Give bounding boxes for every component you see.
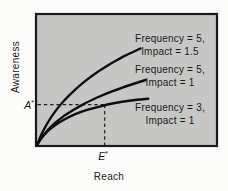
curve-label-line: Frequency = 3, (110, 101, 228, 114)
curve-label-line: Impact = 1.5 (110, 45, 228, 58)
curve-label-frequency3-impact1: Frequency = 3, Impact = 1 (110, 101, 228, 127)
effective-reach-marker: E* (94, 150, 112, 162)
awareness-level-marker: A* (16, 99, 34, 111)
curve-label-line: Impact = 1 (110, 76, 228, 89)
effective-reach-asterisk: * (105, 150, 108, 157)
curve-label-line: Frequency = 5, (110, 63, 228, 76)
curve-label-line: Impact = 1 (110, 114, 228, 127)
awareness-reach-figure: Awareness Frequency = 5, Impact = 1.5 Fr… (0, 0, 228, 191)
y-axis-label: Awareness (10, 41, 21, 93)
x-axis-label: Reach (79, 171, 139, 182)
awareness-level-asterisk: * (31, 99, 34, 106)
curve-label-frequency5-impact1.5: Frequency = 5, Impact = 1.5 (110, 32, 228, 58)
curve-label-line: Frequency = 5, (110, 32, 228, 45)
chart-canvas (0, 0, 228, 191)
curve-label-frequency5-impact1: Frequency = 5, Impact = 1 (110, 63, 228, 89)
